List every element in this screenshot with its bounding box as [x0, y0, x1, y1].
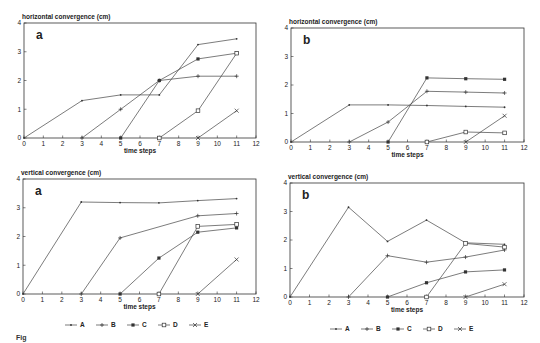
dot-marker-icon — [290, 141, 292, 143]
y-tick-label: 2 — [17, 77, 21, 84]
y-axis-title: horizontal convergence (cm) — [22, 13, 111, 21]
dot-marker-icon — [387, 241, 389, 243]
x-tick-label: 9 — [196, 140, 200, 147]
series-B — [347, 89, 506, 144]
dot-marker-icon — [158, 94, 160, 96]
star-marker-icon — [235, 226, 238, 229]
legend-item-C: C — [392, 325, 412, 332]
series-B — [79, 212, 238, 297]
series-line — [466, 116, 505, 142]
x-tick-label: 5 — [118, 296, 122, 303]
star-marker-icon — [118, 292, 121, 295]
series-B — [80, 74, 239, 140]
dot-marker-icon — [197, 44, 199, 46]
figure-canvas: horizontal convergence (cm)a012345678910… — [0, 0, 540, 343]
dot-marker-icon — [504, 243, 506, 245]
dot-marker-icon — [80, 201, 82, 203]
x-tick-label: 0 — [288, 299, 292, 306]
y-tick-label: 1 — [283, 265, 287, 272]
x-tick-label: 0 — [21, 296, 25, 303]
y-tick-label: 2 — [283, 236, 287, 243]
series-E — [196, 258, 239, 297]
series-A — [22, 198, 237, 295]
series-line — [120, 228, 237, 294]
series-line — [349, 250, 505, 297]
x-tick-label: 11 — [233, 296, 240, 303]
legend-label: A — [80, 321, 85, 328]
square-marker-icon — [427, 327, 431, 331]
legend-label: C — [407, 325, 412, 332]
series-D — [158, 51, 239, 139]
dot-marker-icon — [197, 200, 199, 202]
plot-frame — [290, 183, 524, 297]
series-C — [386, 76, 506, 143]
y-axis-title: vertical convergence (cm) — [288, 173, 368, 181]
y-tick-label: 0 — [17, 134, 21, 141]
star-marker-icon — [131, 323, 134, 326]
legend-item-B: B — [96, 321, 116, 328]
square-marker-icon — [158, 136, 162, 140]
legend-label: B — [111, 321, 116, 328]
square-marker-icon — [425, 295, 429, 299]
x-tick-label: 5 — [386, 299, 390, 306]
x-tick-label: 1 — [41, 296, 45, 303]
y-tick-label: 0 — [16, 290, 20, 297]
legend-label: D — [173, 321, 178, 328]
dot-marker-icon — [335, 328, 337, 330]
legend-item-E: E — [454, 325, 474, 332]
series-E — [196, 109, 239, 140]
dot-marker-icon — [70, 324, 72, 326]
dot-marker-icon — [119, 202, 121, 204]
series-line — [349, 91, 504, 142]
x-tick-label: 2 — [60, 296, 64, 303]
x-tick-label: 10 — [481, 299, 489, 306]
x-axis-title: time steps — [391, 306, 424, 314]
star-marker-icon — [386, 295, 389, 298]
x-tick-label: 1 — [42, 140, 46, 147]
x-tick-label: 11 — [501, 144, 508, 151]
x-tick-label: 10 — [214, 296, 222, 303]
legend-item-A: A — [65, 321, 85, 328]
dot-marker-icon — [504, 106, 506, 108]
x-tick-label: 7 — [158, 140, 162, 147]
dot-marker-icon — [22, 293, 24, 295]
plus-marker-icon — [365, 327, 369, 331]
star-marker-icon — [386, 140, 389, 143]
plus-marker-icon — [425, 260, 429, 264]
x-tick-label: 4 — [366, 299, 370, 306]
square-marker-icon — [235, 51, 239, 55]
y-axis-title: horizontal convergence (cm) — [289, 18, 378, 26]
star-marker-icon — [425, 76, 428, 79]
plus-marker-icon — [196, 214, 200, 218]
series-line — [159, 53, 236, 138]
x-tick-label: 6 — [138, 296, 142, 303]
y-tick-label: 3 — [16, 204, 20, 211]
plot-frame — [23, 179, 256, 294]
star-marker-icon — [196, 57, 199, 60]
y-tick-label: 0 — [284, 138, 288, 145]
x-tick-label: 1 — [309, 144, 313, 151]
square-marker-icon — [503, 245, 507, 249]
dot-marker-icon — [158, 202, 160, 204]
x-tick-label: 6 — [406, 144, 410, 151]
panel-label: b — [302, 188, 309, 202]
star-marker-icon — [158, 79, 161, 82]
star-marker-icon — [425, 281, 428, 284]
chart-vert-b: vertical convergence (cm)b01234567891011… — [283, 173, 528, 314]
x-tick-label: 3 — [347, 144, 351, 151]
x-tick-label: 12 — [252, 140, 260, 147]
series-line — [23, 199, 237, 294]
x-tick-label: 8 — [445, 144, 449, 151]
legend-left: ABCDE — [65, 321, 209, 328]
plus-marker-icon — [464, 255, 468, 259]
plus-marker-icon — [196, 74, 200, 78]
legend-item-E: E — [189, 321, 209, 328]
star-marker-icon — [119, 136, 122, 139]
x-tick-label: 4 — [367, 144, 371, 151]
series-line — [291, 105, 505, 142]
y-tick-label: 1 — [284, 110, 288, 117]
x-tick-label: 3 — [79, 296, 83, 303]
legend-item-B: B — [361, 325, 381, 332]
series-E — [464, 114, 507, 144]
legend-item-D: D — [158, 321, 178, 328]
